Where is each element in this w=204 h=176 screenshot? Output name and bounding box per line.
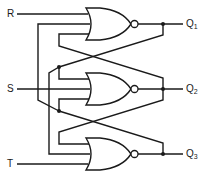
label-q3: Q3 bbox=[186, 149, 198, 160]
junction-q3 bbox=[161, 152, 165, 156]
junction-left-lower bbox=[57, 109, 61, 113]
label-s: S bbox=[7, 84, 14, 94]
label-q3-sub: 3 bbox=[194, 153, 198, 160]
wire-gate2-in1 bbox=[59, 67, 89, 79]
inversion-bubble-1 bbox=[131, 21, 138, 28]
label-q2-text: Q bbox=[186, 83, 194, 94]
label-r: R bbox=[7, 9, 14, 19]
label-t-text: T bbox=[7, 158, 13, 169]
label-q3-text: Q bbox=[186, 148, 194, 159]
label-t: T bbox=[7, 159, 13, 169]
label-q2-sub: 2 bbox=[194, 88, 198, 95]
nor-gate-circuit bbox=[0, 0, 204, 176]
junction-left-upper bbox=[57, 65, 61, 69]
nor-gate-3 bbox=[86, 138, 131, 170]
wire-gate2-in3 bbox=[59, 99, 89, 111]
wire-gate3-in1 bbox=[49, 67, 90, 154]
label-r-text: R bbox=[7, 8, 14, 19]
nor-gate-1 bbox=[86, 8, 131, 40]
label-q1: Q1 bbox=[186, 19, 198, 30]
label-q2: Q2 bbox=[186, 84, 198, 95]
label-q1-sub: 1 bbox=[194, 23, 198, 30]
inversion-bubble-3 bbox=[131, 151, 138, 158]
label-s-text: S bbox=[7, 83, 14, 94]
nor-gate-2 bbox=[86, 73, 131, 105]
junction-q1 bbox=[161, 22, 165, 26]
label-q1-text: Q bbox=[186, 18, 194, 29]
wire-gate1-in2 bbox=[38, 24, 90, 111]
junction-q2 bbox=[161, 87, 165, 91]
inversion-bubble-2 bbox=[131, 86, 138, 93]
